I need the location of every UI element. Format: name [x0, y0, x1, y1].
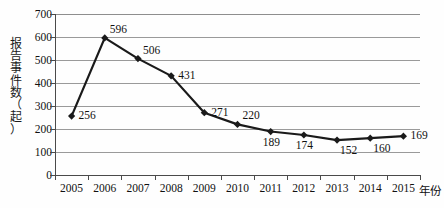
y-axis-tick-label: 700 — [12, 8, 52, 20]
data-label: 174 — [296, 139, 313, 151]
y-axis-tick-label: 600 — [12, 31, 52, 43]
data-point-marker — [267, 128, 274, 135]
x-axis-tick-mark — [55, 175, 56, 180]
y-axis-tick-label: 0 — [12, 169, 52, 181]
data-point-marker — [367, 135, 374, 142]
data-point-marker — [333, 136, 340, 143]
data-label: 160 — [373, 142, 390, 154]
y-axis-tick-labels: 0100200300400500600700 — [10, 0, 52, 208]
y-axis-tick-label: 200 — [12, 123, 52, 135]
data-point-marker — [300, 131, 307, 138]
data-point-marker — [68, 113, 75, 120]
data-label: 506 — [143, 44, 160, 56]
data-label: 271 — [211, 106, 228, 118]
y-axis-tick-mark — [50, 37, 56, 38]
x-axis-tick-mark — [121, 175, 122, 180]
y-axis-tick-mark — [50, 60, 56, 61]
x-axis-tick-mark — [221, 175, 222, 180]
x-axis-tick-mark — [387, 175, 388, 180]
x-axis-tick-mark — [188, 175, 189, 180]
data-label: 169 — [410, 129, 427, 141]
data-point-marker — [234, 121, 241, 128]
data-label: 431 — [178, 69, 195, 81]
x-axis-tick-mark — [254, 175, 255, 180]
x-axis-tick-mark — [354, 175, 355, 180]
y-axis-tick-mark — [50, 152, 56, 153]
x-axis-tick-mark — [88, 175, 89, 180]
y-axis-tick-label: 400 — [12, 77, 52, 89]
data-label: 220 — [243, 109, 260, 121]
x-axis-title: 年份 — [419, 182, 441, 198]
y-axis-tick-mark — [50, 106, 56, 107]
y-axis-tick-label: 300 — [12, 100, 52, 112]
y-axis-tick-mark — [50, 83, 56, 84]
y-axis-tick-mark — [50, 14, 56, 15]
data-point-marker — [400, 133, 407, 140]
data-label: 152 — [340, 144, 357, 156]
x-axis-tick-mark — [287, 175, 288, 180]
x-axis-tick-mark — [320, 175, 321, 180]
x-axis-tick-mark — [155, 175, 156, 180]
y-axis-tick-label: 100 — [12, 146, 52, 158]
data-label: 256 — [79, 109, 96, 121]
series-line — [55, 14, 420, 175]
y-axis-tick-mark — [50, 129, 56, 130]
line-chart: 报 告 事 件 数 （ 起 ） 0100200300400500600700 2… — [0, 0, 444, 208]
y-axis-tick-label: 500 — [12, 54, 52, 66]
data-label: 189 — [263, 136, 280, 148]
data-label: 596 — [110, 23, 127, 35]
x-axis-tick-mark — [420, 175, 421, 180]
x-axis-line — [55, 175, 421, 176]
